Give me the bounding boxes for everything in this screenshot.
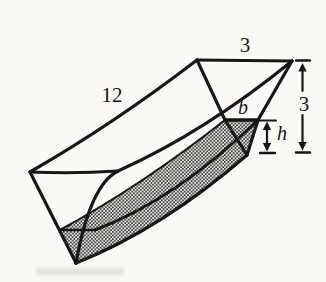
water-depth-label: h [277, 123, 287, 143]
length-label: 12 [102, 85, 123, 106]
left-end-far-edge [30, 172, 76, 263]
trough-left-top-edge [30, 171, 118, 173]
trough-figure: 12 3 3 b h [0, 0, 326, 282]
depth-dim-down-arrowhead [298, 142, 306, 151]
scan-smudge [36, 268, 124, 275]
water-stipple-region [60, 120, 258, 263]
h-dim-down-arrowhead [263, 143, 271, 152]
depth-label: 3 [299, 94, 310, 115]
trough-right-top-edge [197, 60, 292, 61]
h-dim-up-arrowhead [263, 122, 271, 131]
trough-far-top-edge [30, 60, 197, 172]
water-width-label: b [238, 97, 248, 117]
depth-dim-up-arrowhead [298, 63, 306, 72]
top-width-label: 3 [240, 35, 251, 56]
